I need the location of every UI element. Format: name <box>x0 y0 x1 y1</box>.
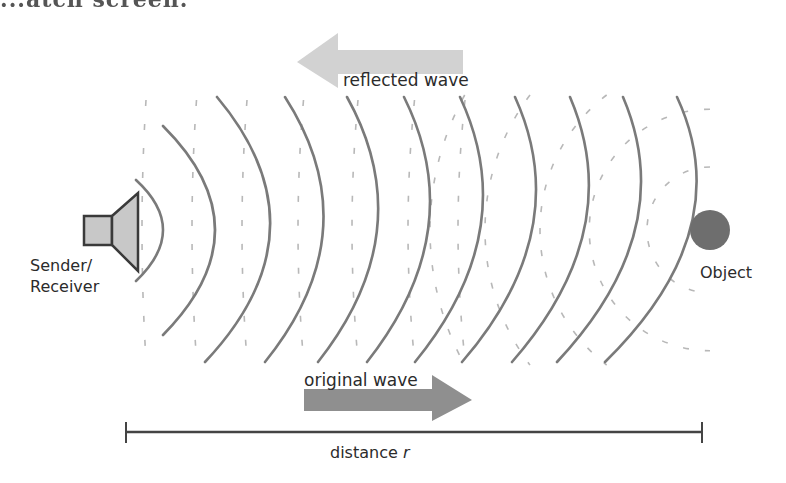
solid-wave-front <box>557 97 641 362</box>
dashed-wave-front <box>352 100 358 360</box>
echo-diagram: reflected wave original wave Sender/ Rec… <box>0 0 786 483</box>
reflected-wave-front <box>540 95 607 365</box>
reflected-wave-label: reflected wave <box>343 70 469 90</box>
distance-ruler <box>126 422 702 443</box>
solid-wave-front <box>163 126 215 335</box>
distance-label-text: distance <box>330 443 403 462</box>
distance-variable: r <box>403 443 411 462</box>
reflected-wave-front <box>430 95 465 365</box>
solid-wave-front <box>605 97 697 362</box>
solid-wave-front <box>462 97 536 362</box>
reflected-wave-fronts <box>142 95 710 365</box>
original-wave-label: original wave <box>304 370 418 390</box>
solid-wave-front <box>415 97 483 362</box>
dashed-wave-front <box>298 100 304 360</box>
dashed-wave-front <box>142 100 146 360</box>
dashed-wave-front <box>458 100 465 360</box>
sender-label-line1: Sender/ <box>30 256 93 275</box>
solid-wave-front <box>265 97 324 362</box>
distance-label: distance r <box>330 443 411 462</box>
dashed-wave-front <box>408 100 415 360</box>
speaker-body <box>84 216 112 245</box>
solid-wave-front <box>512 97 589 362</box>
solid-wave-front <box>318 97 378 362</box>
original-wave-fronts <box>136 97 697 362</box>
object-icon <box>690 210 730 250</box>
dashed-wave-front <box>192 100 197 360</box>
sender-label-line2: Receiver <box>30 277 100 296</box>
solid-wave-front <box>136 180 163 281</box>
object-label: Object <box>700 263 752 282</box>
speaker-cone <box>112 193 138 271</box>
